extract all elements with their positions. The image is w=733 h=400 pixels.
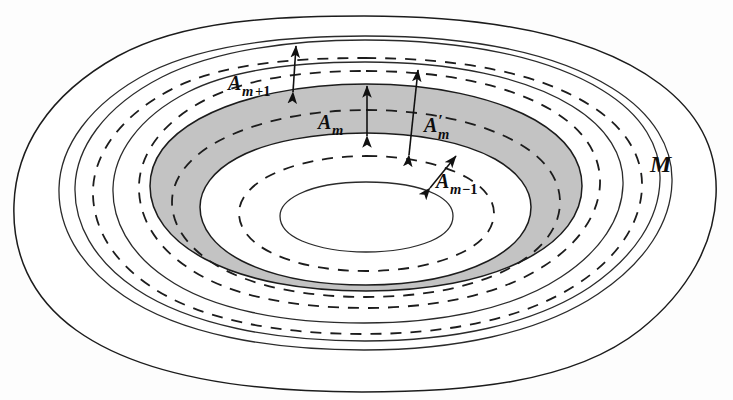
label-a-m-plus-1-subvar: m [242,83,253,99]
label-a-m-base: A [316,111,331,133]
label-a-m-subvar: m [332,122,343,138]
label-a-m-minus-1-base: A [434,170,449,192]
figure-root: A m +1 A m A ′ m A m −1 M [0,0,733,400]
label-a-m-minus-1-subop: −1 [462,181,478,197]
nested-regions-diagram: A m +1 A m A ′ m A m −1 M [0,0,733,400]
label-a-m-minus-1-subvar: m [450,181,461,197]
label-a-m-plus-1-base: A [226,72,241,94]
label-a-m-prime-base: A [422,114,437,136]
label-a-m-plus-1-subop: +1 [255,83,271,99]
label-a-m-prime-subvar: m [438,126,449,142]
label-outer-set-M: M [649,151,673,177]
